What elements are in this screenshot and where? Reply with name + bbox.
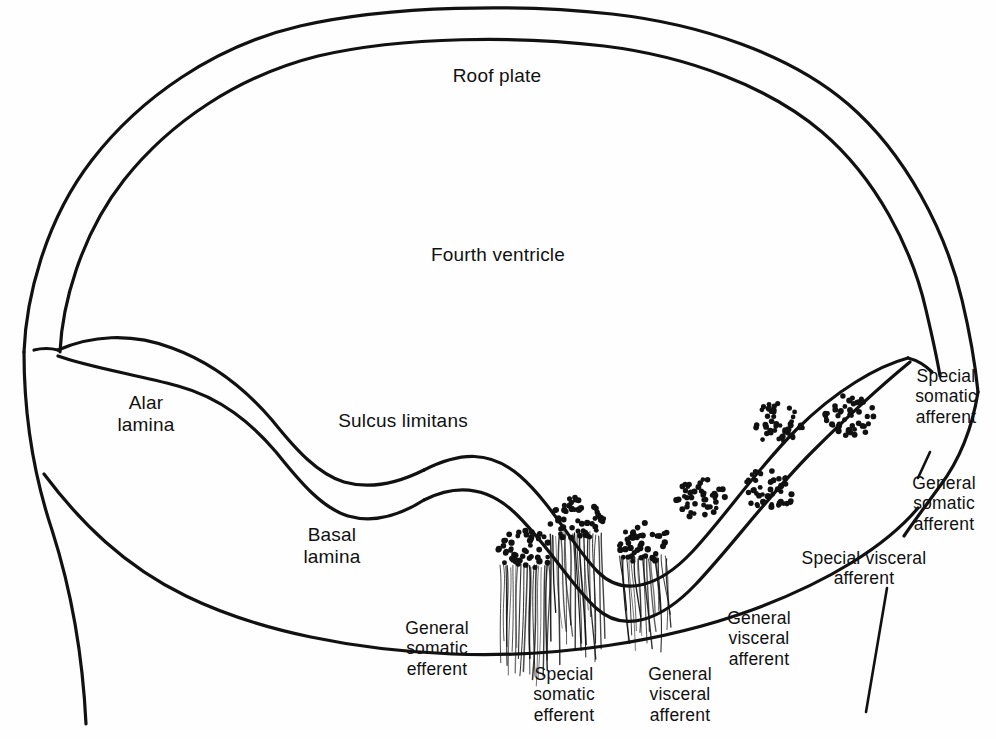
label-general-somatic-efferent: General somatic efferent [382,618,492,679]
label-basal-lamina: Basal lamina [272,524,392,568]
label-alar-lamina: Alar lamina [86,392,206,436]
anatomical-diagram: Roof plate Fourth ventricle Alar lamina … [0,0,996,739]
label-sulcus-limitans: Sulcus limitans [310,410,496,432]
floor-lower-contour-left [58,356,424,519]
general-somatic-efferent-nucleus [495,528,550,570]
leader-line-right-lower [866,588,887,712]
left-tip-join [34,349,58,351]
general-somatic-afferent-nucleus [753,401,805,444]
special-visceral-afferent-nucleus [744,468,794,510]
label-roof-plate: Roof plate [412,65,582,87]
general-visceral-afferent-nucleus [673,477,728,519]
label-special-visceral-afferent: Special visceral afferent [766,548,962,589]
special-visceral-efferent-fiber-bundle [550,532,605,665]
label-fourth-ventricle: Fourth ventricle [378,244,618,266]
label-general-somatic-afferent: General somatic afferent [892,473,996,534]
label-general-visceral-afferent: General visceral afferent [706,608,812,669]
label-general-visceral-efferent: General visceral afferent [628,664,732,725]
general-visceral-efferent-fiber-bundle [620,555,671,652]
label-special-somatic-efferent: Special somatic efferent [512,664,616,725]
roof-plate-inner-contour [60,39,940,376]
left-lateral-wall [24,352,86,724]
figure-svg [0,0,996,739]
label-special-somatic-afferent: Special somatic afferent [896,366,996,427]
